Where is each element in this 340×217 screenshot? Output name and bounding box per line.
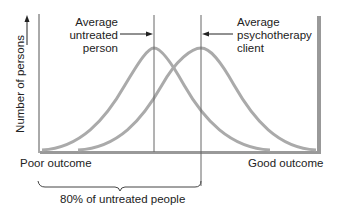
untreated-label-line3: person xyxy=(70,42,118,55)
untreated-label-line2: untreated xyxy=(60,29,118,42)
x-axis xyxy=(40,151,321,154)
client-curve xyxy=(78,48,316,150)
right-border xyxy=(317,16,321,154)
brace xyxy=(38,181,201,191)
client-label-line2: psychotherapy xyxy=(237,29,312,42)
x-right-label: Good outcome xyxy=(248,157,323,170)
brace-label: 80% of untreated people xyxy=(60,193,185,206)
untreated-label-line1: Average xyxy=(70,16,118,29)
x-left-label: Poor outcome xyxy=(20,157,92,170)
y-axis-label: Number of persons xyxy=(14,24,26,144)
client-label-line3: client xyxy=(237,42,264,55)
client-label-line1: Average xyxy=(237,16,280,29)
untreated-curve xyxy=(42,48,270,150)
